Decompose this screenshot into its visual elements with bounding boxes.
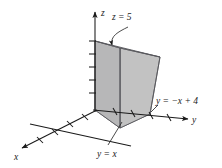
annotation-y1-text: y = x — [96, 149, 117, 159]
annotation-y-equals-x: y = x — [96, 122, 122, 159]
axis-x-tick — [67, 121, 73, 127]
annotation-y-neg-x-plus-4: y = −x + 4 — [151, 96, 198, 112]
annotation-y2-leader — [151, 105, 158, 112]
axis-z-label: z — [100, 8, 105, 18]
base-trace-line — [30, 124, 131, 146]
annotation-y1-leader — [108, 122, 122, 145]
axis-x-line — [22, 110, 97, 148]
coordinate-system-diagram: z y x z = 5 — [0, 0, 222, 168]
annotation-z-text: z = 5 — [111, 12, 132, 22]
axis-x-label: x — [13, 152, 19, 162]
trace-line-y-equals-x — [30, 124, 131, 146]
prism-face-left — [95, 41, 120, 128]
annotation-y2-text: y = −x + 4 — [155, 96, 198, 106]
annotation-z-arrow — [112, 27, 128, 45]
axis-y-label: y — [191, 115, 197, 125]
annotation-z-equals-5: z = 5 — [111, 12, 132, 45]
figure-3d-solid-region: z y x z = 5 — [0, 0, 222, 168]
